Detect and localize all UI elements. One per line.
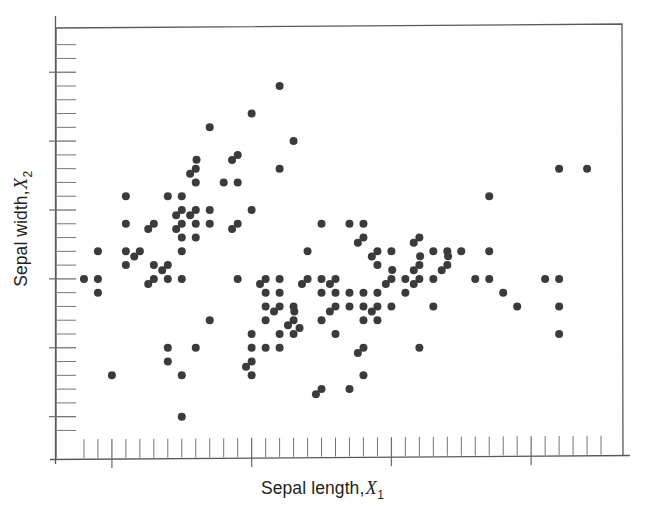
data-point bbox=[373, 261, 381, 269]
data-points-group bbox=[80, 82, 591, 421]
data-point bbox=[410, 266, 418, 274]
x-axis-variable: X bbox=[364, 478, 376, 498]
data-point bbox=[318, 220, 326, 228]
data-point bbox=[122, 247, 130, 255]
data-point bbox=[555, 165, 563, 173]
data-point bbox=[178, 247, 186, 255]
data-point bbox=[471, 275, 479, 283]
data-point bbox=[144, 280, 152, 288]
data-point bbox=[192, 220, 200, 228]
data-point bbox=[206, 316, 214, 324]
x-axis-line bbox=[50, 456, 630, 460]
data-point bbox=[318, 289, 326, 297]
data-point bbox=[108, 371, 116, 379]
data-point bbox=[172, 211, 180, 219]
data-point bbox=[429, 275, 437, 283]
data-point bbox=[401, 289, 409, 297]
data-point bbox=[94, 247, 102, 255]
data-point bbox=[298, 280, 306, 288]
data-point bbox=[262, 302, 270, 310]
data-point bbox=[345, 289, 353, 297]
data-point bbox=[262, 344, 270, 352]
data-point bbox=[256, 280, 264, 288]
data-point bbox=[388, 266, 396, 274]
data-point bbox=[359, 220, 367, 228]
data-point bbox=[429, 302, 437, 310]
data-point bbox=[178, 371, 186, 379]
data-point bbox=[345, 220, 353, 228]
plot-canvas bbox=[0, 0, 645, 518]
data-point bbox=[158, 266, 166, 274]
data-point bbox=[387, 302, 395, 310]
data-point bbox=[444, 252, 452, 260]
data-point bbox=[485, 247, 493, 255]
data-point bbox=[290, 302, 298, 310]
data-point bbox=[276, 165, 284, 173]
data-point bbox=[345, 385, 353, 393]
data-point bbox=[228, 225, 236, 233]
data-point bbox=[94, 289, 102, 297]
data-point bbox=[192, 178, 200, 186]
y-axis-variable: X bbox=[11, 178, 31, 190]
data-point bbox=[80, 275, 88, 283]
data-point bbox=[401, 275, 409, 283]
data-point bbox=[164, 344, 172, 352]
data-point bbox=[555, 275, 563, 283]
data-point bbox=[192, 234, 200, 242]
data-point bbox=[499, 289, 507, 297]
y-axis-title-text: Sepal width, bbox=[11, 191, 31, 288]
data-point bbox=[304, 247, 312, 255]
data-point bbox=[485, 275, 493, 283]
data-point bbox=[345, 302, 353, 310]
data-point bbox=[193, 156, 201, 164]
data-point bbox=[387, 247, 395, 255]
data-point bbox=[332, 289, 340, 297]
data-point bbox=[164, 275, 172, 283]
data-point bbox=[485, 192, 493, 200]
data-point bbox=[312, 390, 320, 398]
data-point bbox=[150, 261, 158, 269]
data-point bbox=[234, 275, 242, 283]
data-point bbox=[248, 110, 256, 118]
data-point bbox=[429, 247, 437, 255]
data-point bbox=[373, 316, 381, 324]
data-point bbox=[178, 413, 186, 421]
figure-page: Sepal width,X2 Sepal length,X1 bbox=[0, 0, 645, 518]
data-point bbox=[122, 220, 130, 228]
x-axis-variable-subscript: 1 bbox=[377, 488, 384, 502]
data-point bbox=[382, 280, 390, 288]
data-point bbox=[248, 344, 256, 352]
y-axis-variable-subscript: 2 bbox=[21, 171, 35, 178]
data-point bbox=[172, 225, 180, 233]
data-point bbox=[410, 280, 418, 288]
data-point bbox=[368, 252, 376, 260]
data-point bbox=[164, 192, 172, 200]
data-point bbox=[234, 178, 242, 186]
data-point bbox=[242, 363, 250, 371]
data-point bbox=[290, 330, 298, 338]
plot-frame bbox=[56, 24, 623, 459]
data-point bbox=[354, 239, 362, 247]
data-point bbox=[359, 289, 367, 297]
data-point bbox=[206, 206, 214, 214]
data-point bbox=[318, 316, 326, 324]
data-point bbox=[270, 308, 278, 316]
data-point bbox=[206, 220, 214, 228]
x-axis-title: Sepal length,X1 bbox=[0, 478, 645, 502]
data-point bbox=[284, 321, 292, 329]
data-point bbox=[178, 275, 186, 283]
data-point bbox=[296, 324, 304, 332]
data-point bbox=[178, 234, 186, 242]
data-point bbox=[164, 358, 172, 366]
data-point bbox=[276, 330, 284, 338]
data-point bbox=[228, 156, 236, 164]
data-point bbox=[186, 211, 194, 219]
data-point bbox=[513, 302, 521, 310]
data-point bbox=[457, 247, 465, 255]
data-point bbox=[555, 302, 563, 310]
data-point bbox=[359, 302, 367, 310]
data-point bbox=[359, 371, 367, 379]
data-point bbox=[438, 266, 446, 274]
data-point bbox=[318, 275, 326, 283]
data-point bbox=[290, 137, 298, 145]
